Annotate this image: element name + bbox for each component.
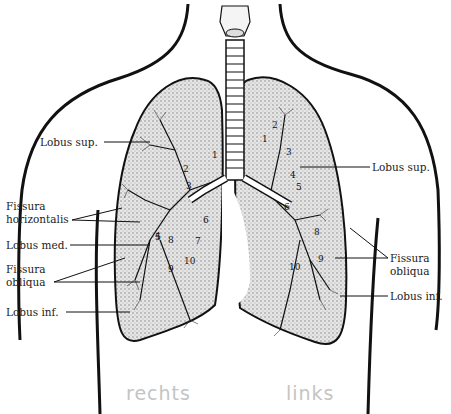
svg-text:2: 2	[183, 164, 189, 174]
label-fissura-horizontalis-2: horizontalis	[6, 213, 69, 225]
label-right-fissura-obliqua-1: Fissura	[6, 263, 45, 275]
svg-text:5: 5	[296, 182, 302, 192]
svg-text:9: 9	[318, 254, 324, 264]
label-right-fissura-obliqua-2: obliqua	[6, 276, 46, 288]
svg-text:10: 10	[184, 256, 196, 266]
handwritten-rechts: rechts	[126, 382, 191, 404]
label-left-fissura-obliqua-2: obliqua	[390, 265, 430, 277]
handwritten-links: links	[286, 382, 335, 404]
label-fissura-horizontalis-1: Fissura	[6, 200, 45, 212]
svg-text:4: 4	[290, 170, 296, 180]
label-left-lobus-sup: Lobus sup.	[372, 161, 430, 173]
svg-text:6: 6	[203, 215, 209, 225]
svg-text:1: 1	[262, 134, 268, 144]
svg-text:3: 3	[286, 147, 292, 157]
left-lung	[235, 77, 346, 344]
svg-text:1: 1	[212, 150, 218, 160]
svg-text:5: 5	[155, 232, 161, 242]
svg-text:8: 8	[314, 227, 320, 237]
label-left-lobus-inf: Lobus inf.	[390, 290, 442, 302]
label-right-lobus-inf: Lobus inf.	[6, 306, 58, 318]
svg-text:7: 7	[195, 236, 201, 246]
svg-text:3: 3	[186, 181, 192, 191]
label-left-fissura-obliqua-1: Fissura	[390, 252, 429, 264]
svg-text:6: 6	[284, 202, 290, 212]
svg-text:2: 2	[272, 120, 278, 130]
label-right-lobus-med: Lobus med.	[6, 239, 68, 251]
svg-text:8: 8	[168, 235, 174, 245]
label-right-lobus-sup: Lobus sup.	[40, 136, 98, 148]
svg-text:10: 10	[289, 262, 301, 272]
svg-text:9: 9	[168, 264, 174, 274]
lung-illustration: 123 456 789 10 123 456 8910	[0, 0, 451, 414]
